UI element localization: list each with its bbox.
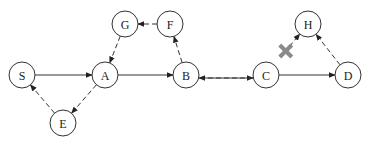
- node-label: S: [19, 69, 26, 83]
- node-label: F: [167, 18, 174, 32]
- node-label: D: [344, 69, 353, 83]
- blocked-edge-x-icon: [280, 45, 292, 57]
- edge-g-to-a: [110, 36, 121, 63]
- node-h: H: [295, 11, 321, 37]
- node-a: A: [92, 62, 118, 88]
- node-b: B: [173, 62, 199, 88]
- edge-a-to-e: [72, 85, 97, 113]
- node-label: H: [304, 18, 313, 32]
- edge-b-to-f: [174, 36, 182, 62]
- edge-e-to-s: [30, 85, 54, 113]
- node-label: B: [182, 69, 190, 83]
- node-d: D: [335, 62, 361, 88]
- node-f: F: [157, 11, 183, 37]
- node-label: A: [101, 69, 110, 83]
- node-g: G: [112, 11, 138, 37]
- node-s: S: [9, 62, 35, 88]
- node-e: E: [50, 110, 76, 136]
- node-label: G: [121, 18, 130, 32]
- node-label: C: [262, 69, 270, 83]
- node-label: E: [59, 117, 66, 131]
- graph-diagram: SABCDGFHE: [0, 0, 371, 145]
- edge-d-to-h: [316, 34, 340, 65]
- node-c: C: [253, 62, 279, 88]
